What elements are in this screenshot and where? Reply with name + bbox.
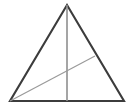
geometry-figure-canvas [0, 0, 132, 112]
geometry-diagram-svg [0, 0, 132, 112]
